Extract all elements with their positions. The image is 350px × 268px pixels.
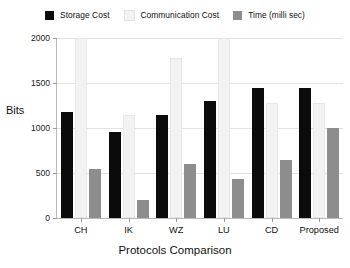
y-tick-label: 500 [36, 169, 50, 178]
bar-ch-storage[interactable] [61, 112, 73, 218]
x-tick-mark [129, 218, 130, 222]
bar-lu-comm[interactable] [218, 38, 230, 218]
x-tick-label-ik: IK [124, 225, 133, 236]
x-tick-label-ch: CH [74, 225, 87, 236]
x-tick-mark [176, 218, 177, 222]
bar-ik-time[interactable] [137, 200, 149, 218]
bar-wz-comm[interactable] [170, 58, 182, 218]
x-axis-title: Protocols Comparison [0, 243, 350, 257]
bar-proposed-time[interactable] [327, 128, 339, 218]
y-axis-title: Bits [6, 104, 24, 117]
legend-label-communication-cost: Communication Cost [141, 10, 220, 20]
bar-wz-time[interactable] [184, 164, 196, 218]
bar-groups: CHIKWZLUCDProposed [57, 38, 343, 218]
legend-label-storage-cost: Storage Cost [60, 10, 109, 20]
x-tick-label-cd: CD [265, 225, 278, 236]
bar-group-lu: LU [200, 38, 248, 218]
legend-swatch-time [233, 11, 242, 20]
legend-swatch-communication-cost [124, 10, 135, 21]
bar-group-ik: IK [105, 38, 153, 218]
bar-group-proposed: Proposed [295, 38, 343, 218]
bar-proposed-storage[interactable] [299, 88, 311, 219]
plot-area: 0500100015002000 CHIKWZLUCDProposed [56, 38, 343, 219]
chart-legend: Storage Cost Communication Cost Time (mi… [0, 6, 350, 24]
bar-group-cd: CD [248, 38, 296, 218]
x-tick-mark [81, 218, 82, 222]
x-tick-label-lu: LU [218, 225, 230, 236]
bar-cd-time[interactable] [280, 160, 292, 219]
bar-group-wz: WZ [152, 38, 200, 218]
bar-ik-comm[interactable] [123, 115, 135, 218]
bar-lu-storage[interactable] [204, 101, 216, 218]
y-tick-label: 1000 [31, 124, 50, 133]
bar-ik-storage[interactable] [109, 132, 121, 218]
x-tick-mark [224, 218, 225, 222]
bar-ch-time[interactable] [89, 169, 101, 218]
bar-wz-storage[interactable] [156, 115, 168, 219]
bar-group-ch: CH [57, 38, 105, 218]
legend-item-time: Time (milli sec) [233, 10, 305, 20]
x-tick-mark [272, 218, 273, 222]
y-tick-label: 0 [45, 214, 50, 223]
y-tick-mark [53, 218, 57, 219]
x-tick-label-wz: WZ [169, 225, 183, 236]
bar-lu-time[interactable] [232, 179, 244, 218]
legend-item-storage-cost: Storage Cost [45, 10, 109, 20]
x-tick-label-proposed: Proposed [300, 225, 339, 236]
x-tick-mark [319, 218, 320, 222]
bar-chart: Storage Cost Communication Cost Time (mi… [0, 0, 350, 268]
y-tick-label: 2000 [31, 34, 50, 43]
bar-ch-comm[interactable] [75, 38, 87, 218]
legend-item-communication-cost: Communication Cost [124, 10, 220, 21]
bar-cd-comm[interactable] [266, 103, 278, 218]
legend-swatch-storage-cost [45, 11, 54, 20]
y-tick-label: 1500 [31, 79, 50, 88]
bar-cd-storage[interactable] [252, 88, 264, 219]
legend-label-time: Time (milli sec) [248, 10, 305, 20]
bar-proposed-comm[interactable] [313, 103, 325, 218]
